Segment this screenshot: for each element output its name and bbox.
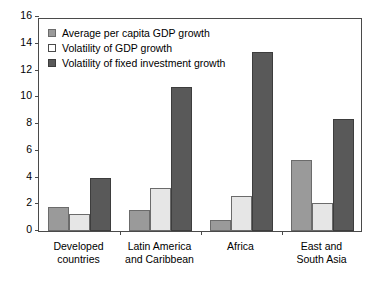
x-axis-label: Latin Americaand Caribbean	[119, 240, 200, 266]
y-tick-label: 8	[26, 116, 32, 128]
y-tick-label: 0	[26, 223, 32, 235]
x-axis-separator	[201, 231, 202, 235]
bar	[150, 188, 171, 231]
x-axis-separator	[120, 231, 121, 235]
x-axis-label-line: Africa	[200, 240, 281, 253]
bar	[333, 119, 354, 231]
legend-swatch-icon	[48, 59, 56, 67]
legend-item: Average per capita GDP growth	[48, 26, 225, 40]
bar	[291, 160, 312, 231]
x-axis-label: Developedcountries	[38, 240, 119, 266]
x-axis-label-line: Latin America	[119, 240, 200, 253]
x-axis-label-line: and Caribbean	[119, 253, 200, 266]
x-axis-label: East andSouth Asia	[281, 240, 362, 266]
legend-label: Average per capita GDP growth	[62, 27, 210, 39]
legend-item: Volatility of GDP growth	[48, 41, 225, 55]
y-tick-mark	[35, 16, 39, 17]
x-axis-label-line: Developed	[38, 240, 119, 253]
legend: Average per capita GDP growthVolatility …	[48, 26, 225, 71]
bar-chart: 0246810121416 DevelopedcountriesLatin Am…	[0, 0, 384, 284]
y-tick-label: 2	[26, 196, 32, 208]
x-axis-label: Africa	[200, 240, 281, 253]
y-tick-label: 14	[20, 36, 32, 48]
bar	[252, 52, 273, 231]
bar	[129, 210, 150, 231]
bar	[90, 178, 111, 231]
bar	[48, 207, 69, 231]
y-tick-label: 10	[20, 89, 32, 101]
legend-label: Volatility of fixed investment growth	[62, 57, 225, 69]
y-tick-label: 6	[26, 143, 32, 155]
x-axis-label-line: East and	[281, 240, 362, 253]
bar	[69, 214, 90, 231]
bar	[312, 203, 333, 231]
legend-swatch-icon	[48, 44, 56, 52]
y-tick-label: 4	[26, 170, 32, 182]
x-axis-label-line: countries	[38, 253, 119, 266]
x-axis-label-line: South Asia	[281, 253, 362, 266]
bar	[231, 196, 252, 231]
legend-swatch-icon	[48, 29, 56, 37]
y-tick-label: 16	[20, 9, 32, 21]
bar	[171, 87, 192, 231]
bar-group	[282, 19, 363, 231]
legend-item: Volatility of fixed investment growth	[48, 56, 225, 70]
x-axis-separator	[282, 231, 283, 235]
y-tick-label: 12	[20, 63, 32, 75]
legend-label: Volatility of GDP growth	[62, 42, 172, 54]
bar	[210, 220, 231, 231]
